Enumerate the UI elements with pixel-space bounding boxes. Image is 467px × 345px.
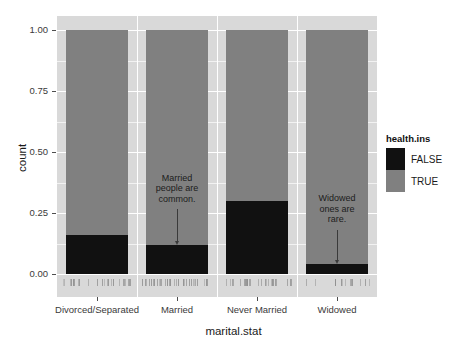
legend: health.ins FALSETRUE [386, 133, 442, 192]
rug-strip [222, 279, 292, 286]
annotation-text: Widowed ones are rare. [282, 193, 392, 225]
legend-key-swatch [386, 148, 405, 170]
x-tick-label: Widowed [267, 304, 407, 315]
y-tick-label: 1.00 [14, 25, 48, 35]
x-tick-mark [257, 297, 258, 301]
annotation-arrow-head [175, 241, 179, 245]
annotation-text: Married people are common. [122, 173, 232, 205]
y-tick-label: 0.00 [14, 269, 48, 279]
rug-strip [62, 279, 132, 286]
legend-title: health.ins [386, 133, 442, 144]
y-tick-mark [52, 91, 56, 92]
bar-segment-false[interactable] [146, 245, 208, 274]
legend-label: FALSE [411, 154, 442, 165]
x-axis-title: marital.stat [0, 325, 467, 337]
rug-strip [302, 279, 372, 286]
plot-panel: Married people are common.Widowed ones a… [57, 16, 377, 297]
bar-segment-false[interactable] [66, 235, 128, 274]
y-tick-label: 0.50 [14, 147, 48, 157]
legend-entry[interactable]: TRUE [386, 170, 442, 192]
y-tick-label: 0.75 [14, 86, 48, 96]
y-tick-mark [52, 152, 56, 153]
y-tick-mark [52, 213, 56, 214]
y-tick-label: 0.25 [14, 208, 48, 218]
bar-divorced-separated[interactable] [66, 30, 128, 274]
bar-segment-false[interactable] [226, 201, 288, 274]
bar-segment-false[interactable] [306, 264, 368, 274]
bar-never-married[interactable] [226, 30, 288, 274]
x-tick-mark [97, 297, 98, 301]
y-tick-mark [52, 30, 56, 31]
gridline-vertical [137, 16, 138, 297]
x-tick-mark [177, 297, 178, 301]
gridline-vertical [297, 16, 298, 297]
rug-strip [142, 279, 212, 286]
legend-label: TRUE [411, 176, 438, 187]
legend-entries: FALSETRUE [386, 148, 442, 192]
annotation-arrow-shaft [337, 230, 338, 260]
y-tick-mark [52, 274, 56, 275]
legend-key-swatch [386, 170, 405, 192]
chart-root: count 0.000.250.500.751.00 Married peopl… [0, 0, 467, 345]
gridline-vertical [217, 16, 218, 297]
annotation-arrow-head [335, 260, 339, 264]
legend-entry[interactable]: FALSE [386, 148, 442, 170]
x-tick-mark [337, 297, 338, 301]
annotation-arrow-shaft [177, 209, 178, 240]
